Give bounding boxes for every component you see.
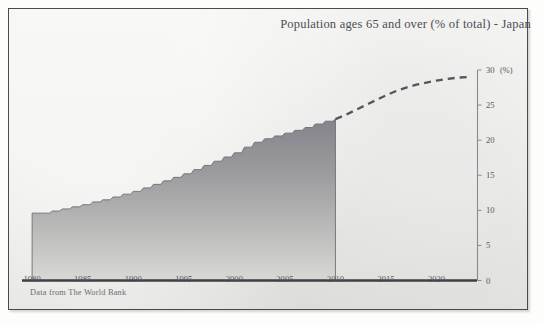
y-tick-label: 20 bbox=[486, 135, 495, 145]
series-observed-area bbox=[32, 119, 335, 280]
y-axis-ticks bbox=[478, 70, 482, 281]
x-tick-label: 1990 bbox=[125, 274, 142, 284]
y-tick-label: 30 bbox=[486, 65, 495, 75]
observed-area-path bbox=[32, 119, 335, 280]
chart-figure: Population ages 65 and over (% of total)… bbox=[0, 0, 543, 326]
x-tick-label: 2015 bbox=[377, 274, 394, 284]
x-tick-label: 1980 bbox=[24, 274, 41, 284]
chart-source-note: Data from The World Bank bbox=[30, 288, 126, 297]
y-tick-label: 0 bbox=[486, 276, 490, 286]
projection-dash-path bbox=[335, 77, 466, 119]
y-tick-label: 15 bbox=[486, 170, 495, 180]
x-tick-label: 2005 bbox=[276, 274, 293, 284]
series-projection-line bbox=[335, 77, 466, 119]
x-tick-label: 1995 bbox=[175, 274, 192, 284]
y-tick-label: 10 bbox=[486, 205, 495, 215]
x-tick-label: 2020 bbox=[428, 274, 445, 284]
y-axis-unit-label: (%) bbox=[500, 66, 512, 75]
y-tick-label: 25 bbox=[486, 100, 495, 110]
x-tick-label: 2010 bbox=[327, 274, 344, 284]
x-tick-label: 1985 bbox=[74, 274, 91, 284]
y-tick-label: 5 bbox=[486, 240, 490, 250]
x-tick-label: 2000 bbox=[226, 274, 243, 284]
